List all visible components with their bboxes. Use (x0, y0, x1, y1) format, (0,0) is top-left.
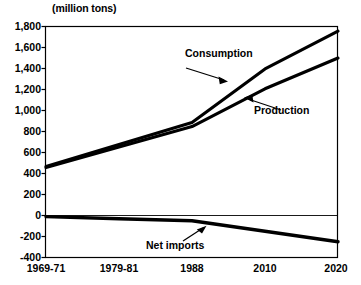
x-tick-label: 2010 (253, 262, 276, 274)
plot-frame (46, 27, 338, 258)
chart-container: (million tons) 1,800 1,600 1,400 1,200 1… (0, 0, 361, 285)
consumption-annotation-arrow (186, 68, 228, 84)
x-tick-label: 1969-71 (27, 262, 66, 274)
net-imports-label: Net imports (146, 239, 204, 251)
x-tick-label: 2020 (324, 262, 347, 274)
production-label: Production (254, 104, 309, 116)
x-tick-label: 1988 (180, 262, 203, 274)
consumption-label: Consumption (185, 47, 253, 59)
x-tick-label: 1979-81 (100, 262, 139, 274)
